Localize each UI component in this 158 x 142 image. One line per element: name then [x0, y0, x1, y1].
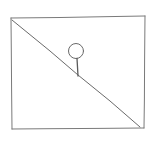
- frame-left-edge: [11, 18, 12, 129]
- sketch-drawing: [0, 0, 158, 142]
- frame-bottom-edge: [12, 128, 144, 129]
- diagonal-line: [12, 20, 140, 127]
- frame-top-edge: [11, 16, 145, 18]
- lollipop-head-circle: [69, 44, 84, 59]
- frame-right-edge: [144, 16, 145, 128]
- sketch-canvas: [0, 0, 158, 142]
- lollipop-stem: [77, 59, 78, 77]
